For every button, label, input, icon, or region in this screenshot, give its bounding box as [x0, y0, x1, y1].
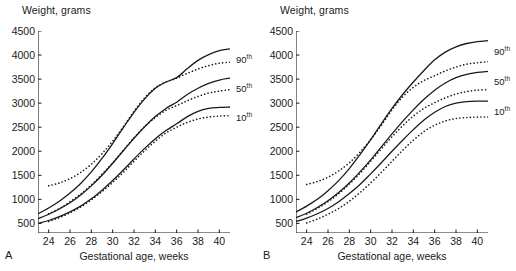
x-tick-label: 40	[213, 235, 225, 247]
x-tick-label: 32	[386, 235, 398, 247]
x-tick-label: 38	[192, 235, 204, 247]
x-tick-label: 28	[343, 235, 355, 247]
percentile-label-10: 10th	[236, 111, 252, 123]
x-tick-label: 32	[128, 235, 140, 247]
panel-a: Weight, grams 50010001500200025003000350…	[0, 0, 258, 271]
x-axis-title-a: Gestational age, weeks	[38, 250, 230, 262]
x-tick-label: 34	[149, 235, 161, 247]
panel-b: Weight, grams 50010001500200025003000350…	[258, 0, 516, 271]
x-tick-labels-a: 242628303234363840	[0, 0, 258, 271]
figure-growth-curves: Weight, grams 50010001500200025003000350…	[0, 0, 516, 271]
percentile-label-50: 50th	[236, 82, 252, 94]
percentile-label-90: 90th	[494, 45, 510, 57]
x-tick-label: 26	[322, 235, 334, 247]
x-tick-label: 36	[171, 235, 183, 247]
x-tick-label: 30	[107, 235, 119, 247]
percentile-label-50: 50th	[494, 75, 510, 87]
x-tick-label: 34	[407, 235, 419, 247]
x-tick-label: 38	[450, 235, 462, 247]
x-tick-label: 24	[301, 235, 313, 247]
x-tick-label: 26	[64, 235, 76, 247]
x-tick-label: 40	[471, 235, 483, 247]
panel-letter-a: A	[5, 249, 12, 261]
panel-letter-b: B	[263, 249, 270, 261]
x-tick-label: 30	[365, 235, 377, 247]
x-tick-label: 24	[43, 235, 55, 247]
x-tick-label: 28	[85, 235, 97, 247]
x-tick-label: 36	[429, 235, 441, 247]
percentile-label-90: 90th	[236, 53, 252, 65]
percentile-label-10: 10th	[494, 105, 510, 117]
x-tick-labels-b: 242628303234363840	[258, 0, 516, 271]
x-axis-title-b: Gestational age, weeks	[296, 250, 488, 262]
